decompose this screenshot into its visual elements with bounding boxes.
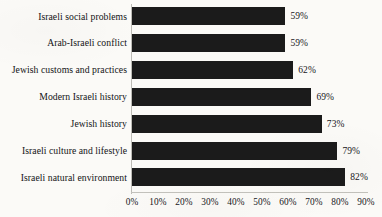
bar-value-label: 82% <box>350 172 368 182</box>
x-axis-tick-label: 10% <box>149 197 166 207</box>
bar-row: 59% <box>132 7 382 25</box>
category-label-text: Jewish history <box>71 118 130 129</box>
bar-row: 59% <box>132 34 382 52</box>
category-label: Israeli culture and lifestyle <box>0 142 130 160</box>
bar-row: 69% <box>132 88 382 106</box>
bar-row: 82% <box>132 168 382 186</box>
category-label-text: Israeli culture and lifestyle <box>22 145 130 156</box>
bar-chart: Israeli social problemsArab-Israeli conf… <box>0 0 382 217</box>
bar-value-label: 59% <box>290 38 308 48</box>
category-label: Modern Israeli history <box>0 88 130 106</box>
x-axis-tick-label: 90% <box>357 197 374 207</box>
category-label: Israeli natural environment <box>0 168 130 186</box>
category-label: Jewish customs and practices <box>0 61 130 79</box>
category-label: Jewish history <box>0 115 130 133</box>
bar <box>132 115 322 133</box>
x-axis-tick-label: 60% <box>279 197 296 207</box>
bar-row: 62% <box>132 61 382 79</box>
x-axis-tick-label: 0% <box>126 197 139 207</box>
x-axis-tick-label: 40% <box>227 197 244 207</box>
bar-row: 79% <box>132 142 382 160</box>
bar <box>132 61 293 79</box>
bar-value-label: 73% <box>327 119 345 129</box>
bar-value-label: 69% <box>316 92 334 102</box>
x-axis-line <box>131 192 368 193</box>
x-axis-tick-label: 50% <box>253 197 270 207</box>
bar <box>132 88 311 106</box>
category-label-text: Arab-Israeli conflict <box>47 37 130 48</box>
bar-value-label: 59% <box>290 11 308 21</box>
bar-row: 73% <box>132 115 382 133</box>
x-axis-tick-label: 20% <box>175 197 192 207</box>
x-axis-tick-label: 70% <box>305 197 322 207</box>
bar <box>132 34 285 52</box>
x-axis-tick-label: 30% <box>201 197 218 207</box>
bar <box>132 168 345 186</box>
category-label: Israeli social problems <box>0 7 130 25</box>
bar <box>132 142 337 160</box>
y-axis-line <box>131 4 132 194</box>
x-axis-tick-label: 80% <box>331 197 348 207</box>
category-label-text: Jewish customs and practices <box>12 64 130 75</box>
bar-value-label: 79% <box>342 146 360 156</box>
bar-value-label: 62% <box>298 65 316 75</box>
category-label-text: Israeli social problems <box>38 11 130 22</box>
category-label-text: Israeli natural environment <box>21 172 130 183</box>
category-label: Arab-Israeli conflict <box>0 34 130 52</box>
bar <box>132 7 285 25</box>
category-label-text: Modern Israeli history <box>39 91 130 102</box>
